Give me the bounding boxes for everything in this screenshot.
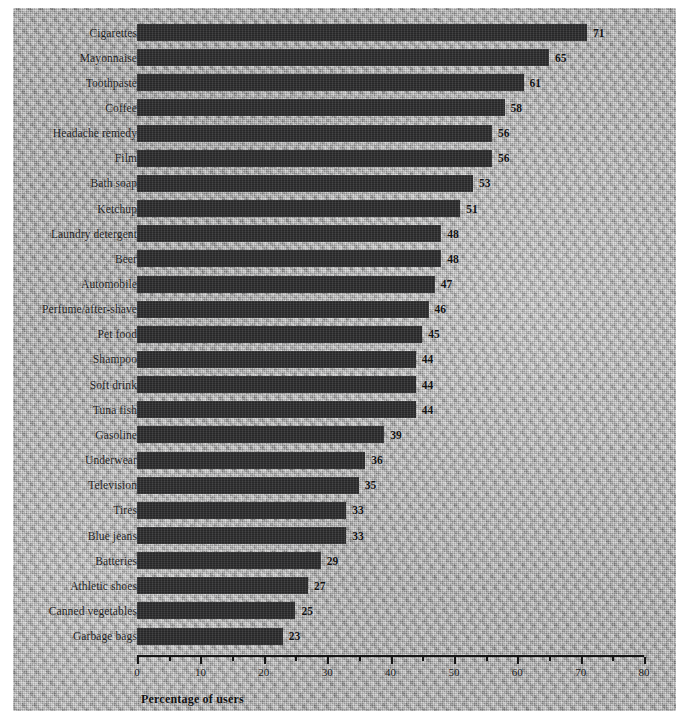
x-axis-tick-label: 30 <box>322 666 333 678</box>
bar-value-label: 47 <box>441 278 453 290</box>
category-label: Automobile <box>81 278 137 290</box>
category-label: Tuna fish <box>93 404 137 416</box>
bar-row: Ketchup51 <box>13 200 676 217</box>
bar-value-label: 25 <box>301 604 313 616</box>
bar-value-label: 33 <box>352 529 364 541</box>
bar-value-label: 33 <box>352 504 364 516</box>
bar-row: Athletic shoes27 <box>13 577 676 594</box>
bar <box>137 351 416 368</box>
category-label: Blue jeans <box>88 529 137 541</box>
bar-value-label: 61 <box>530 76 542 88</box>
x-axis-tick-label: 20 <box>258 666 269 678</box>
x-axis-major-tick <box>327 657 329 664</box>
bar <box>137 326 422 343</box>
bar-row: Beer48 <box>13 250 676 267</box>
x-axis-title: Percentage of users <box>141 692 244 707</box>
bar <box>137 502 346 519</box>
x-axis-major-tick <box>644 657 646 664</box>
x-axis-tick-label: 0 <box>134 666 140 678</box>
category-label: Perfume/after-shave <box>42 303 137 315</box>
x-axis-tick-label: 40 <box>385 666 396 678</box>
category-label: Underwear <box>85 454 137 466</box>
bar-value-label: 39 <box>390 428 402 440</box>
bar-value-label: 58 <box>511 101 523 113</box>
bar-row: Film56 <box>13 150 676 167</box>
bar <box>137 276 435 293</box>
category-label: Cigarettes <box>89 26 137 38</box>
bar <box>137 99 505 116</box>
x-axis-minor-tick <box>169 657 171 661</box>
bar-row: Laundry detergent48 <box>13 225 676 242</box>
x-axis-tick-label: 60 <box>512 666 523 678</box>
bar <box>137 527 346 544</box>
x-axis-major-tick <box>264 657 266 664</box>
x-axis-major-tick <box>391 657 393 664</box>
bar <box>137 24 587 41</box>
bar <box>137 452 365 469</box>
category-label: Television <box>88 479 137 491</box>
bar <box>137 301 429 318</box>
bar-row: Toothpaste61 <box>13 74 676 91</box>
bar-row: Perfume/after-shave46 <box>13 301 676 318</box>
bar <box>137 426 384 443</box>
bar-row: Pet food45 <box>13 326 676 343</box>
bar <box>137 200 460 217</box>
bar-value-label: 36 <box>371 454 383 466</box>
x-axis-tick-label: 10 <box>195 666 206 678</box>
category-label: Athletic shoes <box>70 580 137 592</box>
category-label: Film <box>115 152 137 164</box>
category-label: Coffee <box>105 102 137 114</box>
category-label: Shampoo <box>93 353 137 365</box>
bar-value-label: 35 <box>365 479 377 491</box>
x-axis-major-tick <box>517 657 519 664</box>
bar-row: Gasoline39 <box>13 426 676 443</box>
x-axis-tick-label: 80 <box>639 666 650 678</box>
bar-value-label: 23 <box>289 630 301 642</box>
category-label: Bath soap <box>90 177 137 189</box>
bar-row: Tuna fish44 <box>13 401 676 418</box>
x-axis-minor-tick <box>549 657 551 661</box>
category-label: Gasoline <box>95 429 137 441</box>
bar <box>137 250 441 267</box>
bar-value-label: 56 <box>498 152 510 164</box>
category-label: Soft drink <box>90 378 137 390</box>
bar-row: Soft drink44 <box>13 376 676 393</box>
bar-row: Underwear36 <box>13 452 676 469</box>
category-label: Laundry detergent <box>51 227 137 239</box>
bar <box>137 376 416 393</box>
bar-row: Headache remedy56 <box>13 125 676 142</box>
category-label: Ketchup <box>97 202 137 214</box>
bar <box>137 477 359 494</box>
bar-value-label: 29 <box>327 554 339 566</box>
bar <box>137 577 308 594</box>
bar-value-label: 48 <box>447 227 459 239</box>
category-label: Pet food <box>98 328 137 340</box>
bar <box>137 628 283 645</box>
bar-row: Garbage bags23 <box>13 628 676 645</box>
bar <box>137 74 524 91</box>
bar-row: Cigarettes71 <box>13 24 676 41</box>
x-axis-major-tick <box>137 657 139 664</box>
category-label: Mayonnaise <box>80 51 137 63</box>
bar-value-label: 51 <box>466 202 478 214</box>
bar-row: Automobile47 <box>13 276 676 293</box>
bar-value-label: 56 <box>498 127 510 139</box>
x-axis-minor-tick <box>612 657 614 661</box>
bar-row: Bath soap53 <box>13 175 676 192</box>
category-label: Beer <box>115 253 137 265</box>
category-label: Batteries <box>95 554 137 566</box>
bar-value-label: 45 <box>428 328 440 340</box>
x-axis-line: 01020304050607080 <box>137 655 644 657</box>
bar-row: Canned vegetables25 <box>13 602 676 619</box>
bar <box>137 225 441 242</box>
bar-value-label: 44 <box>422 353 434 365</box>
bar <box>137 602 295 619</box>
x-axis-major-tick <box>200 657 202 664</box>
bar-value-label: 65 <box>555 51 567 63</box>
x-axis-minor-tick <box>295 657 297 661</box>
bar <box>137 49 549 66</box>
bar <box>137 401 416 418</box>
bar-rows: Cigarettes71Mayonnaise65Toothpaste61Coff… <box>13 8 676 711</box>
category-label: Canned vegetables <box>49 605 137 617</box>
bar-value-label: 48 <box>447 252 459 264</box>
